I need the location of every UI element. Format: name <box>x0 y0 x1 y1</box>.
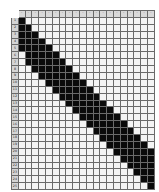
empty-cell <box>18 66 25 73</box>
empty-cell <box>100 52 107 59</box>
empty-cell <box>25 183 32 190</box>
empty-cell <box>127 66 134 73</box>
empty-cell <box>59 52 66 59</box>
empty-cell <box>73 148 80 155</box>
column-header-symbol: ◦ <box>66 11 73 18</box>
empty-cell <box>100 73 107 80</box>
empty-cell <box>93 141 100 148</box>
filled-cell <box>32 66 39 73</box>
filled-cell <box>18 17 25 24</box>
empty-cell <box>73 135 80 142</box>
grid-row: 9 <box>12 73 155 80</box>
empty-cell <box>66 155 73 162</box>
empty-cell <box>52 121 59 128</box>
row-number-label: 9 <box>12 73 19 80</box>
empty-cell <box>32 79 39 86</box>
empty-cell <box>59 155 66 162</box>
filled-cell <box>79 100 86 107</box>
empty-cell <box>147 141 154 148</box>
empty-cell <box>25 121 32 128</box>
grid-row: 1 <box>12 17 155 24</box>
filled-cell <box>141 141 148 148</box>
column-header-symbol: ◦ <box>79 11 86 18</box>
empty-cell <box>32 148 39 155</box>
empty-cell <box>32 162 39 169</box>
empty-cell <box>18 183 25 190</box>
empty-cell <box>100 66 107 73</box>
empty-cell <box>100 45 107 52</box>
empty-cell <box>86 176 93 183</box>
empty-cell <box>73 45 80 52</box>
column-header-symbol: ◦ <box>147 11 154 18</box>
filled-cell <box>79 93 86 100</box>
empty-cell <box>32 121 39 128</box>
column-header-symbol: ◦ <box>59 11 66 18</box>
empty-cell <box>18 155 25 162</box>
empty-cell <box>147 59 154 66</box>
filled-cell <box>127 155 134 162</box>
row-number-label: 3 <box>12 31 19 38</box>
filled-cell <box>52 59 59 66</box>
empty-cell <box>120 24 127 31</box>
empty-cell <box>93 38 100 45</box>
filled-cell <box>45 73 52 80</box>
empty-cell <box>93 45 100 52</box>
empty-cell <box>113 100 120 107</box>
filled-cell <box>39 66 46 73</box>
empty-cell <box>52 31 59 38</box>
empty-cell <box>66 17 73 24</box>
filled-cell <box>86 121 93 128</box>
empty-cell <box>134 100 141 107</box>
empty-cell <box>25 86 32 93</box>
empty-cell <box>39 176 46 183</box>
empty-cell <box>120 183 127 190</box>
filled-cell <box>66 100 73 107</box>
row-number-label: 18 <box>12 135 19 142</box>
empty-cell <box>120 38 127 45</box>
empty-cell <box>39 17 46 24</box>
empty-cell <box>86 59 93 66</box>
empty-cell <box>66 135 73 142</box>
empty-cell <box>73 52 80 59</box>
row-number-label: 12 <box>12 93 19 100</box>
empty-cell <box>66 59 73 66</box>
empty-cell <box>127 45 134 52</box>
empty-cell <box>113 107 120 114</box>
empty-cell <box>120 169 127 176</box>
empty-cell <box>120 93 127 100</box>
empty-cell <box>86 66 93 73</box>
empty-cell <box>25 100 32 107</box>
empty-cell <box>39 31 46 38</box>
pattern-grid: ◦◦◦◦◦◦◦◦◦◦◦◦◦◦◦◦◦◦◦◦ 1234567891011121314… <box>11 10 155 190</box>
filled-cell <box>66 86 73 93</box>
empty-cell <box>39 121 46 128</box>
empty-cell <box>93 169 100 176</box>
filled-cell <box>93 121 100 128</box>
grid-row: 24 <box>12 176 155 183</box>
empty-cell <box>45 24 52 31</box>
empty-cell <box>147 86 154 93</box>
empty-cell <box>73 121 80 128</box>
empty-cell <box>73 128 80 135</box>
empty-cell <box>93 148 100 155</box>
empty-cell <box>107 155 114 162</box>
empty-cell <box>127 31 134 38</box>
empty-cell <box>134 17 141 24</box>
empty-cell <box>18 176 25 183</box>
empty-cell <box>52 17 59 24</box>
empty-cell <box>127 169 134 176</box>
filled-cell <box>39 38 46 45</box>
empty-cell <box>93 17 100 24</box>
empty-cell <box>59 135 66 142</box>
empty-cell <box>93 183 100 190</box>
filled-cell <box>86 93 93 100</box>
empty-cell <box>45 121 52 128</box>
empty-cell <box>86 128 93 135</box>
empty-cell <box>66 107 73 114</box>
filled-cell <box>141 148 148 155</box>
filled-cell <box>73 100 80 107</box>
empty-cell <box>86 155 93 162</box>
empty-cell <box>18 114 25 121</box>
empty-cell <box>107 183 114 190</box>
empty-cell <box>45 93 52 100</box>
